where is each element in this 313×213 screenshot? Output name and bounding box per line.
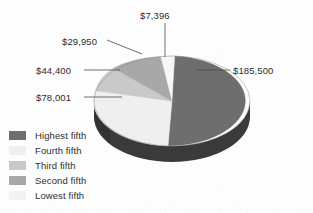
- legend-item-lowest-fifth: Lowest fifth: [9, 189, 86, 202]
- pie-chart-screenshot: $7,396 $29,950 $44,400 $78,001 $185,500 …: [0, 0, 313, 213]
- leader-line-second: [107, 40, 142, 54]
- chart-legend: Highest fifth Fourth fifth Third fifth S…: [9, 129, 86, 202]
- legend-swatch-icon: [9, 131, 26, 140]
- legend-item-second-fifth: Second fifth: [9, 174, 86, 187]
- legend-label: Fourth fifth: [35, 146, 82, 156]
- callout-fourth-fifth: $78,001: [36, 93, 71, 103]
- legend-label: Highest fifth: [35, 131, 86, 141]
- legend-label: Second fifth: [35, 176, 86, 186]
- legend-label: Third fifth: [35, 161, 76, 171]
- callout-lowest-fifth: $7,396: [140, 11, 170, 21]
- legend-label: Lowest fifth: [35, 191, 84, 201]
- legend-swatch-icon: [9, 161, 26, 170]
- legend-item-fourth-fifth: Fourth fifth: [9, 144, 86, 157]
- legend-item-highest-fifth: Highest fifth: [9, 129, 86, 142]
- chart-area: $7,396 $29,950 $44,400 $78,001 $185,500 …: [0, 0, 313, 213]
- legend-swatch-icon: [9, 176, 26, 185]
- callout-highest-fifth: $185,500: [233, 66, 273, 76]
- legend-item-third-fifth: Third fifth: [9, 159, 86, 172]
- callout-third-fifth: $44,400: [36, 66, 71, 76]
- legend-swatch-icon: [9, 191, 26, 200]
- legend-swatch-icon: [9, 146, 26, 155]
- callout-second-fifth: $29,950: [62, 37, 97, 47]
